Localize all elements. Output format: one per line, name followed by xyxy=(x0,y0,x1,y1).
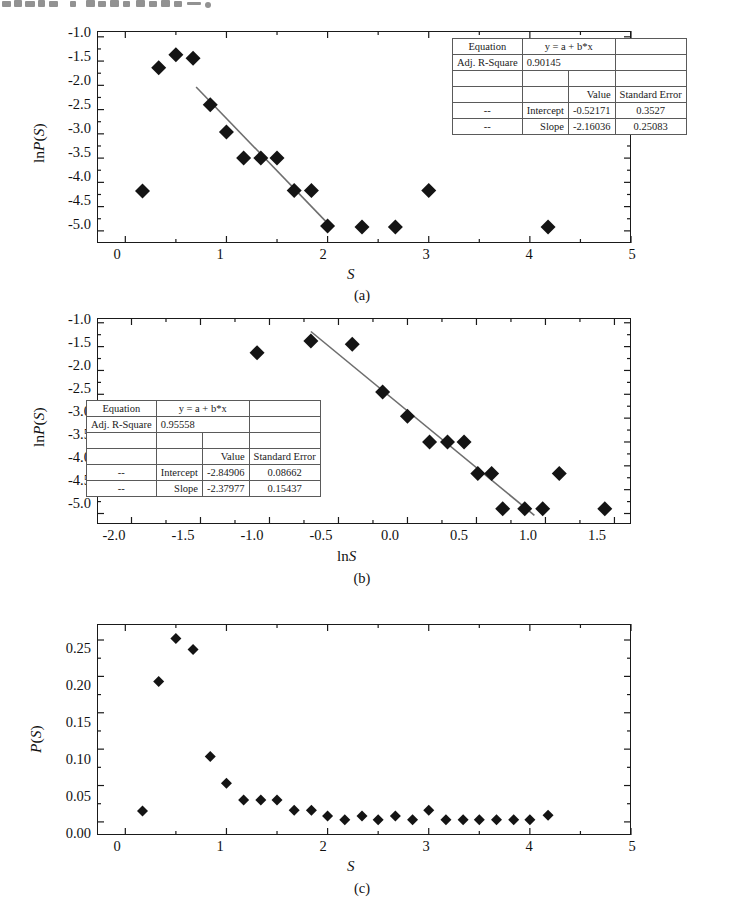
data-point xyxy=(205,751,216,762)
data-point xyxy=(289,805,300,816)
data-point xyxy=(272,795,283,806)
data-point xyxy=(221,778,232,789)
data-point xyxy=(491,814,502,825)
data-point xyxy=(188,644,199,655)
data-point xyxy=(508,814,519,825)
data-point xyxy=(339,814,350,825)
figure-page: -1.0 -1.5 -2.0 -2.5 -3.0 -3.5 -4.0 -4.5 … xyxy=(0,0,735,918)
panel-c-data-layer xyxy=(0,0,735,918)
data-point xyxy=(373,814,384,825)
data-point xyxy=(170,633,181,644)
data-point xyxy=(543,810,554,821)
data-point xyxy=(390,811,401,822)
data-point xyxy=(255,795,266,806)
data-point xyxy=(153,676,164,687)
data-point xyxy=(423,805,434,816)
data-point xyxy=(474,814,485,825)
data-point xyxy=(306,805,317,816)
data-point xyxy=(458,814,469,825)
data-point xyxy=(407,814,418,825)
data-point xyxy=(137,805,148,816)
data-point xyxy=(356,811,367,822)
data-point xyxy=(322,811,333,822)
data-point xyxy=(524,814,535,825)
data-point xyxy=(238,795,249,806)
data-point xyxy=(440,814,451,825)
